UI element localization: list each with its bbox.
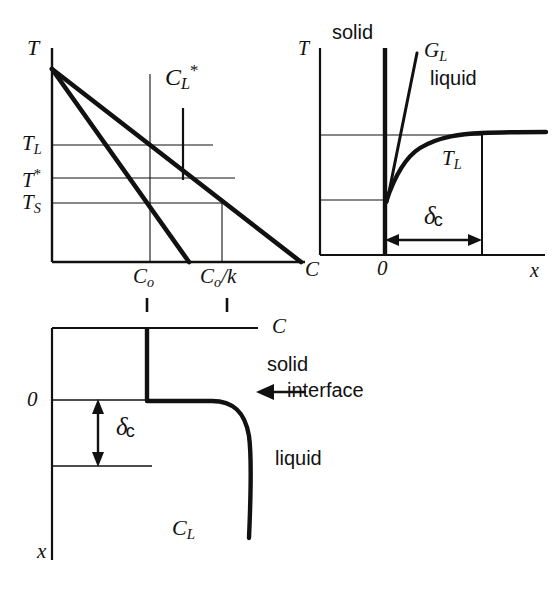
figure-canvas: T TL T* TS Co Co/k CL* T solid liquid GL… — [0, 0, 557, 591]
panel1-TS-subscript: S — [34, 200, 41, 216]
panel3-delta-c-label: δc — [116, 414, 135, 440]
panel1-TL-subscript: L — [34, 141, 42, 157]
panel2-y-axis-label: T — [298, 38, 309, 58]
panel1-tick-label-Co-over-k: Co/k — [200, 266, 236, 289]
panel1-CL-star-label: CL* — [165, 63, 198, 93]
panel2-delta-subscript: c — [434, 210, 443, 230]
panel2-GL-subscript: L — [439, 48, 447, 64]
panel3-delta-c-arrow — [92, 399, 104, 467]
panel3-region-label-liquid: liquid — [275, 448, 322, 468]
panel1-CLstar-superscript: * — [190, 61, 198, 80]
panel1-liquidus-line — [52, 69, 301, 262]
panel3-CL-curve — [147, 401, 251, 538]
panel1-tick-label-Co: Co — [133, 266, 154, 289]
panel2-TL-curve — [386, 132, 546, 202]
panel3-CL-label: CL — [172, 517, 195, 542]
panel3-origin-label: 0 — [27, 389, 38, 410]
panel2-region-label-liquid: liquid — [430, 68, 477, 88]
panel3-delta-subscript: c — [126, 421, 135, 441]
panel1-Tstar-base: T — [22, 168, 34, 192]
panel2-delta-c-arrow — [385, 234, 482, 246]
panel1-Tstar-superscript: * — [34, 166, 41, 182]
panel1-solidus-line — [52, 69, 189, 262]
panel3-region-label-solid: solid — [267, 354, 308, 374]
panel3-c-axis-label: C — [272, 316, 286, 337]
panel2-TL-label: TL — [442, 148, 462, 171]
panel2-c-axis-label: C — [305, 259, 319, 280]
panel2-TL-base: T — [442, 146, 454, 170]
panel2-GL-label: GL — [424, 40, 447, 63]
panel1-y-axis-label: T — [27, 37, 39, 59]
panel1-tick-label-Tstar: T* — [22, 167, 41, 191]
panel1-CLstar-base: C — [165, 64, 181, 90]
panel2-region-label-solid: solid — [332, 22, 373, 42]
panel1-TL-base: T — [22, 131, 34, 155]
panel2-GL-base: G — [424, 38, 439, 62]
panel1-TS-base: T — [22, 190, 34, 214]
panel2-GL-gradient-line — [387, 53, 417, 202]
panel1-CLstar-subscript: L — [181, 74, 190, 93]
panel1-Cok-base: C — [200, 264, 214, 288]
panel2-x-axis-label: x — [530, 260, 539, 280]
panel1-Co-subscript: o — [147, 274, 154, 290]
panel2-origin-label: 0 — [377, 258, 388, 279]
panel3-CL-base: C — [172, 515, 187, 540]
panel3-x-axis-label: x — [37, 541, 46, 562]
panel1-tick-label-TL: TL — [22, 133, 42, 156]
panel1-Co-base: C — [133, 264, 147, 288]
panel2-delta-c-label: δc — [424, 203, 443, 229]
panel3-interface-label: interface — [287, 380, 364, 400]
panel2-TL-subscript: L — [454, 156, 462, 172]
panel3-CL-subscript: L — [187, 526, 195, 542]
panel1-tick-label-TS: TS — [22, 192, 41, 215]
panel1-Cok-rest: /k — [221, 264, 236, 288]
